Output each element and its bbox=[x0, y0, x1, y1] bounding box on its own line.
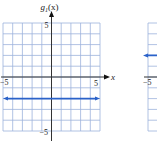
series-arrow-left-icon bbox=[3, 97, 8, 101]
series-arrow-left-icon bbox=[143, 53, 148, 57]
y-axis-title: g1(x) bbox=[41, 2, 59, 13]
y-tick-label-bottom: −5 bbox=[40, 128, 49, 137]
chart-g1: g1(x) 5 −5 −5 5 x bbox=[0, 2, 115, 141]
x-tick-label-left: −5 bbox=[0, 78, 9, 87]
title-arg: (x) bbox=[48, 2, 59, 12]
x-axis-label: x bbox=[110, 72, 115, 82]
x-tick-label-right: 5 bbox=[94, 79, 98, 88]
y-tick-label-top: 5 bbox=[45, 21, 49, 30]
chart-second: −5 bbox=[143, 23, 157, 131]
chart-figure: g1(x) 5 −5 −5 5 x −5 bbox=[0, 0, 157, 142]
x-axis-arrow-icon bbox=[104, 75, 110, 80]
x-tick-label-left-right-chart: −5 bbox=[143, 78, 152, 87]
series-arrow-right-icon bbox=[95, 97, 100, 101]
